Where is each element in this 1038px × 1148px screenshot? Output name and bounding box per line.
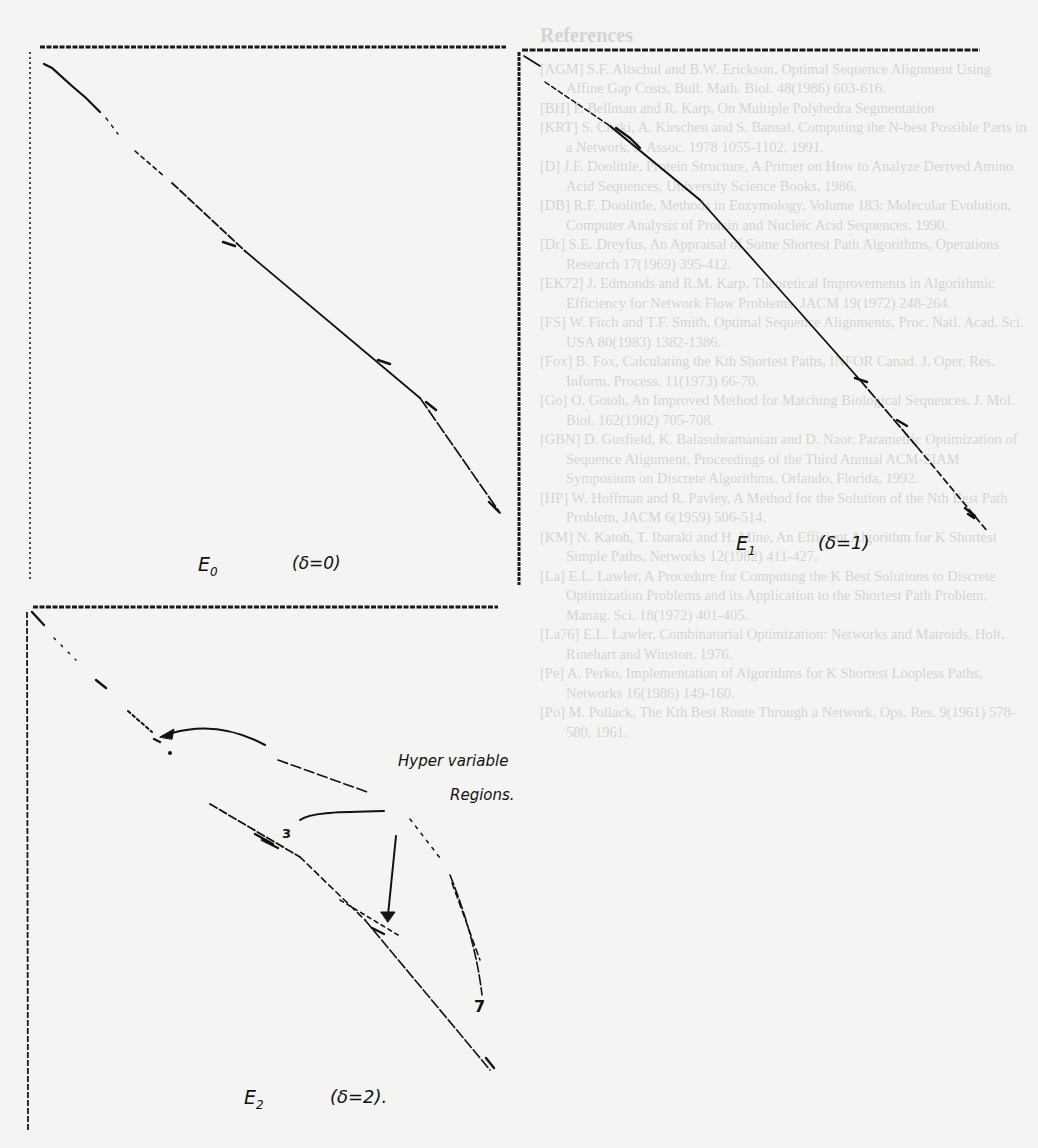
panel-e0-diagonal xyxy=(44,64,500,513)
panel-e1-diagonal xyxy=(524,56,988,532)
panel-subscript: 0 xyxy=(210,565,218,579)
annotation-marker-3: 3 xyxy=(282,826,291,841)
panel-e0-label: E0 xyxy=(198,553,218,579)
panel-e2-diagonals xyxy=(32,612,494,1070)
panel-e2-delta: (δ=2). xyxy=(330,1086,387,1107)
annotation-marker-7: 7 xyxy=(474,997,485,1016)
panel-e0-frame xyxy=(30,47,506,580)
panel-name: E xyxy=(736,532,748,554)
annotation-regions: Regions. xyxy=(450,786,515,804)
annotation-hypervariable: Hyper variable xyxy=(398,752,508,770)
panel-e0-delta: (δ=0) xyxy=(292,553,341,573)
panel-subscript: 2 xyxy=(256,1098,264,1112)
panel-subscript: 1 xyxy=(748,544,756,558)
panel-e2-label: E2 xyxy=(244,1086,264,1112)
panel-e2-frame xyxy=(27,607,498,1130)
panel-e1-label: E1 xyxy=(736,532,756,558)
panel-name: E xyxy=(244,1086,256,1108)
panel-name: E xyxy=(198,553,210,575)
panel-e1-frame xyxy=(519,50,980,585)
panel-e1-delta: (δ=1) xyxy=(818,532,870,553)
dotplot-diagrams xyxy=(0,0,1038,1148)
